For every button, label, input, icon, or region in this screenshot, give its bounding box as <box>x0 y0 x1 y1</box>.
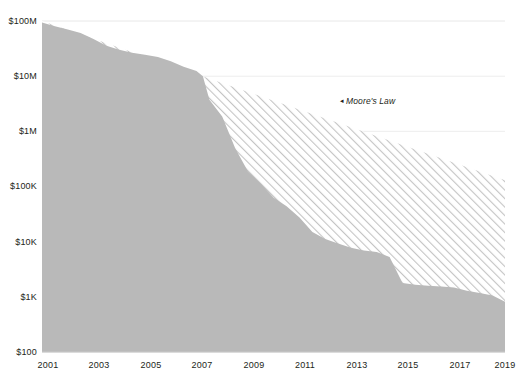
x-tick-label-2017: 2017 <box>440 360 480 370</box>
x-tick-label-2001: 2001 <box>28 360 68 370</box>
x-tick-label-2011: 2011 <box>285 360 325 370</box>
y-tick-label-100: $100 <box>16 347 37 357</box>
y-tick-label-1m: $1M <box>19 126 37 136</box>
moores-law-annotation: ◂Moore's Law <box>340 96 395 106</box>
x-tick-label-2003: 2003 <box>79 360 119 370</box>
x-tick-label-2007: 2007 <box>182 360 222 370</box>
x-tick-label-2013: 2013 <box>337 360 377 370</box>
y-tick-label-10k: $10K <box>15 237 37 247</box>
x-tick-label-2019: 2019 <box>485 360 519 370</box>
genome-sequencing-cost-chart: $100M $10M $1M $100K $10K $1K $100 2001 … <box>0 0 519 375</box>
y-tick-label-1k: $1K <box>20 292 37 302</box>
y-tick-label-10m: $10M <box>14 71 37 81</box>
x-tick-label-2009: 2009 <box>234 360 274 370</box>
y-tick-label-100k: $100K <box>10 181 37 191</box>
chart-plot-area <box>0 0 519 375</box>
y-tick-label-100m: $100M <box>8 16 37 26</box>
x-tick-label-2015: 2015 <box>388 360 428 370</box>
left-triangle-icon: ◂ <box>340 97 344 104</box>
x-tick-label-2005: 2005 <box>131 360 171 370</box>
moores-law-label: Moore's Law <box>346 96 395 106</box>
